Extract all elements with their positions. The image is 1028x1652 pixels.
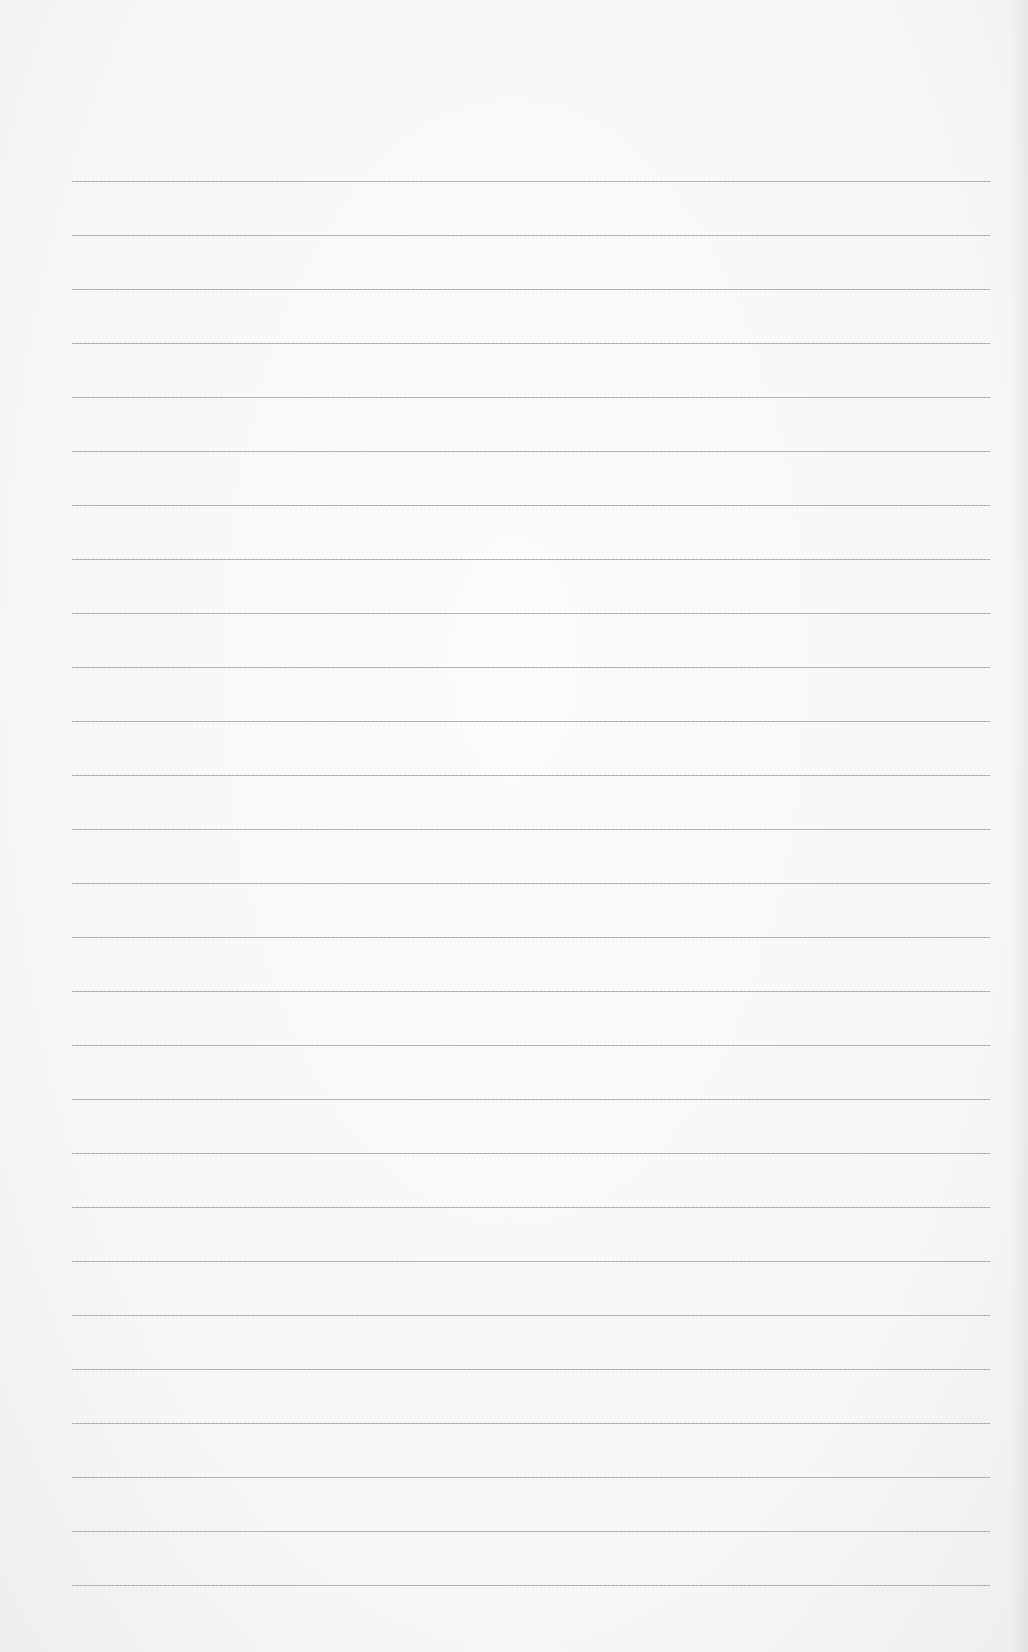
ruled-line bbox=[72, 937, 990, 938]
ruled-line bbox=[72, 721, 990, 722]
ruled-line bbox=[72, 667, 990, 668]
ruled-line bbox=[72, 829, 990, 830]
ruled-line bbox=[72, 289, 990, 290]
ruled-line bbox=[72, 1045, 990, 1046]
ruled-line bbox=[72, 1531, 990, 1532]
ruled-line bbox=[72, 1477, 990, 1478]
ruled-line bbox=[72, 1153, 990, 1154]
ruled-line bbox=[72, 1261, 990, 1262]
ruled-line bbox=[72, 397, 990, 398]
ruled-line bbox=[72, 1423, 990, 1424]
ruled-line bbox=[72, 1369, 990, 1370]
ruled-line bbox=[72, 883, 990, 884]
ruled-line bbox=[72, 1099, 990, 1100]
ruled-line bbox=[72, 235, 990, 236]
ruled-line bbox=[72, 181, 990, 182]
ruled-line bbox=[72, 559, 990, 560]
ruled-line bbox=[72, 1315, 990, 1316]
ruled-line bbox=[72, 613, 990, 614]
ruled-line bbox=[72, 1585, 990, 1586]
ruled-line bbox=[72, 991, 990, 992]
ruled-line bbox=[72, 451, 990, 452]
ruled-line bbox=[72, 343, 990, 344]
lined-paper-page bbox=[0, 0, 1028, 1652]
ruled-line bbox=[72, 1207, 990, 1208]
ruled-line bbox=[72, 775, 990, 776]
paper-edge-shadow bbox=[1010, 0, 1028, 1652]
ruled-line bbox=[72, 505, 990, 506]
